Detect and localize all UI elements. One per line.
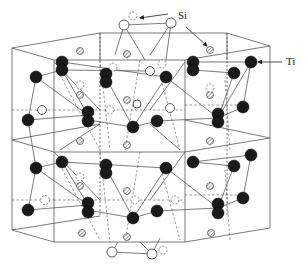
structure-drawing	[0, 0, 306, 265]
ti-label: Ti	[286, 55, 295, 67]
bonds-dashed	[12, 60, 240, 242]
unit-cell-frame	[12, 33, 270, 242]
si-label: Si	[178, 9, 187, 21]
si-arrow-1	[140, 14, 168, 18]
crystal-structure-diagram: Si Ti	[0, 0, 306, 265]
si-arrow-2	[186, 27, 207, 46]
